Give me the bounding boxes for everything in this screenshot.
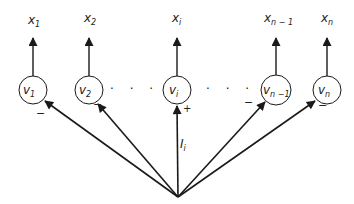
winner-take-all-diagram: v1 v2 vi vn −1 vn x1 x2 xi xn − 1 xn · ·…: [0, 0, 354, 204]
input-arrow-1: [45, 101, 178, 197]
input-arrow-n: [178, 101, 315, 197]
svg-text:xn − 1: xn − 1: [263, 11, 293, 27]
svg-text:xn: xn: [320, 11, 333, 27]
svg-text:−: −: [318, 99, 327, 112]
svg-text:x2: x2: [83, 11, 96, 27]
input-arrow-n-1: [178, 102, 265, 197]
input-label: Ii: [180, 137, 187, 153]
svg-text:−: −: [244, 96, 253, 109]
output-arrows: [33, 38, 327, 76]
input-arrow-2: [98, 104, 178, 197]
svg-text:xi: xi: [171, 11, 182, 27]
svg-text:−: −: [36, 107, 45, 120]
input-arrow-i: [177, 106, 178, 197]
svg-text:x1: x1: [27, 13, 40, 29]
ellipsis-left: · · ·: [110, 82, 159, 96]
svg-text:−: −: [93, 98, 102, 111]
svg-text:+: +: [183, 103, 191, 114]
ellipsis-right: · · ·: [206, 82, 255, 96]
output-labels: x1 x2 xi xn − 1 xn: [27, 11, 333, 29]
nodes: [19, 75, 341, 105]
